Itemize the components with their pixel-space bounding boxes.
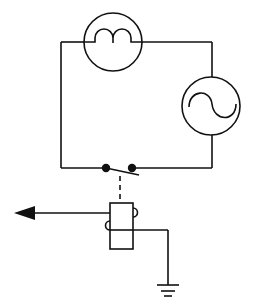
lamp-filament-icon (84, 13, 142, 71)
relay-coil-icon (106, 203, 138, 249)
arrow-left-icon (14, 206, 110, 220)
ground-icon (157, 285, 179, 296)
switch-icon (102, 164, 139, 175)
ac-source-icon (182, 77, 240, 135)
ground-wire (133, 230, 168, 285)
